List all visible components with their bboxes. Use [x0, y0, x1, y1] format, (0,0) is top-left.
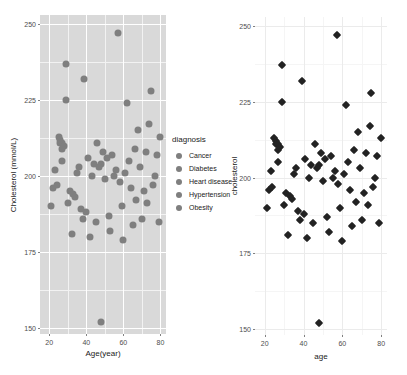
data-point	[122, 169, 129, 176]
data-point	[51, 166, 58, 173]
x-axis-tick-mark	[123, 334, 124, 336]
right-plot-y-axis-title: cholesterol	[230, 157, 239, 196]
data-point	[311, 140, 319, 148]
data-point	[131, 145, 138, 152]
data-point	[79, 215, 86, 222]
y-axis-tick-label: 225	[18, 97, 36, 104]
data-point	[101, 176, 108, 183]
data-point	[92, 218, 99, 225]
gridline-horizontal-major	[255, 253, 387, 254]
data-point	[346, 185, 354, 193]
gridline-horizontal-minor	[255, 215, 387, 216]
data-point	[129, 221, 136, 228]
y-axis-tick-mark	[38, 176, 40, 177]
y-axis-tick-label: 150	[233, 325, 251, 332]
data-point	[133, 197, 140, 204]
legend-point-icon	[176, 179, 182, 185]
data-point	[278, 61, 286, 69]
legend-key-swatch	[172, 201, 185, 214]
scatterplot-figure: 150175200225250 20406080 Cholesterol (mm…	[0, 0, 407, 375]
y-axis-tick-mark	[253, 26, 255, 27]
data-point	[68, 230, 75, 237]
x-axis-tick-label: 20	[261, 340, 269, 347]
gridline-vertical-major	[49, 15, 50, 334]
legend-point-icon	[176, 166, 182, 172]
gridline-horizontal-major	[255, 26, 387, 27]
legend-item[interactable]: Obesity	[172, 201, 232, 214]
y-axis-tick-label: 150	[18, 324, 36, 331]
data-point	[94, 139, 101, 146]
x-axis-tick-mark	[265, 335, 266, 337]
left-plot-y-axis-title: Cholesterol (mmol/L)	[9, 137, 18, 211]
x-axis-tick-mark	[49, 334, 50, 336]
data-point	[127, 185, 134, 192]
data-point	[59, 157, 66, 164]
gridline-horizontal-minor	[40, 214, 166, 215]
data-point	[96, 163, 103, 170]
gridline-horizontal-major	[40, 100, 166, 101]
data-point	[274, 158, 282, 166]
data-point	[146, 121, 153, 128]
gridline-vertical-minor	[142, 15, 143, 334]
legend-item-label: Heart disease	[189, 178, 232, 185]
data-point	[280, 201, 288, 209]
data-point	[148, 87, 155, 94]
data-point	[103, 154, 110, 161]
gridline-horizontal-minor	[40, 290, 166, 291]
data-point	[365, 122, 373, 130]
data-point	[151, 173, 158, 180]
data-point	[262, 204, 270, 212]
y-axis-tick-mark	[38, 24, 40, 25]
gridline-horizontal-minor	[40, 62, 166, 63]
legend-key-swatch	[172, 162, 185, 175]
data-point	[105, 212, 112, 219]
legend-item[interactable]: Cancer	[172, 149, 232, 162]
data-point	[81, 75, 88, 82]
x-axis-tick-mark	[86, 334, 87, 336]
legend-key-swatch	[172, 188, 185, 201]
data-point	[266, 167, 274, 175]
x-axis-tick-mark	[381, 335, 382, 337]
data-point	[367, 88, 375, 96]
legend-item[interactable]: Diabetes	[172, 162, 232, 175]
data-point	[325, 228, 333, 236]
data-point	[72, 194, 79, 201]
gridline-horizontal-major	[40, 24, 166, 25]
data-point	[48, 203, 55, 210]
y-axis-tick-mark	[253, 329, 255, 330]
y-axis-tick-label: 250	[233, 23, 251, 30]
x-axis-tick-mark	[342, 335, 343, 337]
data-point	[120, 236, 127, 243]
data-point	[116, 179, 123, 186]
legend-item-list: CancerDiabetesHeart diseaseHypertensionO…	[172, 149, 232, 214]
data-point	[375, 219, 383, 227]
y-axis-tick-mark	[253, 253, 255, 254]
data-point	[297, 76, 305, 84]
legend-item[interactable]: Hypertension	[172, 188, 232, 201]
y-axis-tick-mark	[38, 100, 40, 101]
data-point	[125, 157, 132, 164]
legend-point-icon	[176, 153, 182, 159]
data-point	[62, 97, 69, 104]
data-point	[64, 200, 71, 207]
y-axis-tick-label: 225	[233, 98, 251, 105]
x-axis-tick-mark	[160, 334, 161, 336]
data-point	[344, 158, 352, 166]
gridline-horizontal-major	[40, 252, 166, 253]
data-point	[356, 164, 364, 172]
legend-item-label: Hypertension	[189, 191, 230, 198]
x-axis-tick-label: 60	[119, 339, 127, 346]
data-point	[150, 182, 157, 189]
x-axis-tick-label: 20	[45, 339, 53, 346]
right-plot-x-axis-title: age	[314, 352, 327, 361]
y-axis-tick-mark	[38, 252, 40, 253]
gridline-horizontal-minor	[255, 64, 387, 65]
data-point	[155, 218, 162, 225]
data-point	[350, 146, 358, 154]
data-point	[107, 227, 114, 234]
data-point	[363, 201, 371, 209]
legend-item[interactable]: Heart disease	[172, 175, 232, 188]
data-point	[268, 182, 276, 190]
legend-title: diagnosis	[172, 135, 232, 144]
x-axis-tick-label: 40	[82, 339, 90, 346]
